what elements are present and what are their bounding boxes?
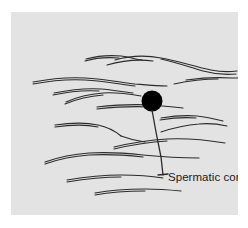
- leader-line-tick: [158, 174, 168, 175]
- anatomical-illustration-panel: Spermatic cord: [11, 12, 238, 215]
- line-drawing-canvas: [11, 12, 238, 215]
- fascia-fiber-line: [97, 107, 151, 109]
- fascia-fiber-line: [160, 118, 196, 120]
- fascia-fiber-line: [33, 80, 135, 86]
- fascia-fiber-line: [174, 79, 218, 84]
- fascia-fiber-line: [45, 155, 143, 164]
- fascia-fiber-line: [66, 93, 141, 102]
- figure-screenshot: Spermatic cord: [0, 0, 248, 228]
- spermatic-cord-marker-icon: [142, 91, 163, 112]
- fascia-fiber-line: [161, 124, 227, 132]
- fascia-fiber-line: [107, 60, 153, 65]
- fascia-fiber-line: [55, 125, 98, 127]
- spermatic-cord-label: Spermatic cord: [168, 170, 238, 184]
- fascia-fiber-line: [67, 177, 121, 182]
